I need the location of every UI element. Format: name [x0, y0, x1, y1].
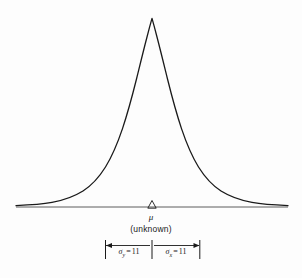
sigma-left-value: 11	[132, 247, 140, 256]
sigma-left-label: σy=11	[106, 248, 152, 258]
figure-canvas	[0, 0, 302, 278]
sigma-right-value: 11	[179, 247, 187, 256]
unknown-caption: (unknown)	[0, 225, 302, 234]
normal-distribution-figure: μ (unknown) σy=11 σx=11	[0, 0, 302, 278]
normal-curve	[16, 18, 288, 205]
mu-label: μ	[0, 213, 302, 222]
sigma-right-label: σx=11	[153, 248, 199, 258]
